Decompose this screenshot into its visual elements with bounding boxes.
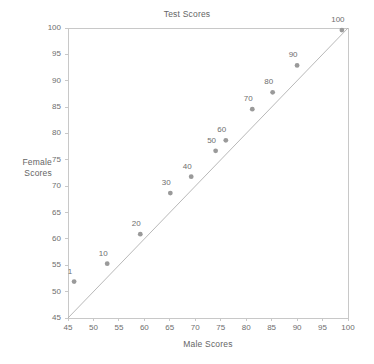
x-tick-label: 70	[183, 324, 207, 332]
x-tick-label: 95	[311, 324, 335, 332]
data-point-marker	[339, 28, 344, 33]
reference-line	[68, 28, 348, 318]
data-point-label: 100	[325, 16, 351, 24]
data-point-label: 1	[57, 268, 83, 276]
x-tick-label: 50	[81, 324, 105, 332]
data-point-label: 70	[235, 95, 261, 103]
data-point-marker	[72, 279, 77, 284]
y-tick-label: 95	[39, 50, 61, 58]
x-tick-label: 55	[107, 324, 131, 332]
data-point-label: 80	[256, 78, 282, 86]
x-tick-label: 45	[56, 324, 80, 332]
data-point-marker	[250, 107, 255, 112]
y-tick-label: 90	[39, 77, 61, 85]
x-tick-label: 90	[285, 324, 309, 332]
data-point-marker	[105, 261, 110, 266]
x-tick-label: 60	[132, 324, 156, 332]
data-point-marker	[168, 191, 173, 196]
y-tick-label: 50	[39, 288, 61, 296]
y-tick-label: 70	[39, 182, 61, 190]
data-point-label: 30	[153, 179, 179, 187]
x-tick-label: 80	[234, 324, 258, 332]
data-point-label: 60	[209, 126, 235, 134]
data-point-label: 50	[199, 137, 225, 145]
y-tick-label: 45	[39, 314, 61, 322]
data-point-marker	[138, 232, 143, 237]
data-point-label: 20	[123, 220, 149, 228]
data-point-marker	[213, 148, 218, 153]
data-point-marker	[295, 63, 300, 68]
y-tick-label: 75	[39, 156, 61, 164]
data-point-label: 90	[280, 51, 306, 59]
data-point-marker	[270, 90, 275, 95]
data-point-label: 10	[90, 250, 116, 258]
x-tick-label: 65	[158, 324, 182, 332]
scatter-chart: Test Scores Female Scores Male Scores 45…	[0, 0, 374, 364]
data-point-label: 40	[174, 163, 200, 171]
x-tick-label: 85	[260, 324, 284, 332]
y-tick-label: 85	[39, 103, 61, 111]
y-tick-label: 80	[39, 129, 61, 137]
identity-line	[68, 28, 348, 318]
y-tick-label: 100	[39, 24, 61, 32]
x-tick-label: 75	[209, 324, 233, 332]
x-tick-label: 100	[336, 324, 360, 332]
y-tick-label: 60	[39, 235, 61, 243]
data-point-marker	[189, 174, 194, 179]
data-markers	[72, 28, 345, 284]
y-tick-label: 65	[39, 209, 61, 217]
